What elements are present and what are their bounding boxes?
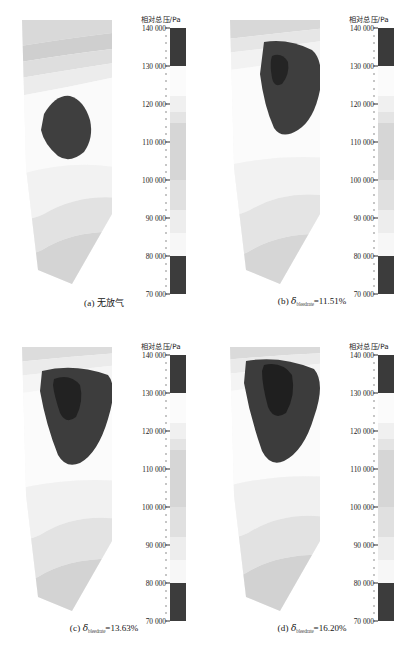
colorbar-tick-label: 100 000 <box>142 503 166 512</box>
colorbar-tick-label: 110 000 <box>350 465 374 474</box>
caption-b: (b) δbleedrate=11.51% <box>208 296 416 306</box>
caption-label-b: (b) <box>278 296 289 306</box>
colorbar-strip-c <box>170 355 186 621</box>
colorbar-minor-tick <box>165 149 167 150</box>
colorbar-minor-tick <box>165 172 167 173</box>
colorbar-tick-mark <box>374 393 378 394</box>
colorbar-minor-tick <box>165 491 167 492</box>
colorbar-band <box>170 450 186 507</box>
colorbar-tick-label: 100 000 <box>350 503 374 512</box>
caption-d: (d) δbleedrate=16.20% <box>208 623 416 633</box>
colorbar-tick-mark <box>166 431 170 432</box>
colorbar-tick-label: 110 000 <box>350 138 374 147</box>
colorbar-minor-tick <box>165 400 167 401</box>
colorbar-tick-label: 140 000 <box>350 24 374 33</box>
colorbar-band <box>378 439 394 450</box>
colorbar-minor-tick <box>373 377 375 378</box>
colorbar-tick-mark <box>374 256 378 257</box>
colorbar-ticks-d: 140 000130 000120 000110 000100 00090 00… <box>326 355 376 621</box>
colorbar-tick-mark <box>166 104 170 105</box>
colorbar-minor-tick <box>165 598 167 599</box>
colorbar-band <box>170 123 186 180</box>
colorbar-minor-tick <box>373 225 375 226</box>
colorbar-tick-mark <box>166 355 170 356</box>
colorbar-minor-tick <box>373 81 375 82</box>
caption-value-c: =13.63% <box>105 623 138 633</box>
colorbar-minor-tick <box>373 286 375 287</box>
colorbar-tick-mark <box>374 469 378 470</box>
colorbar-minor-tick <box>373 400 375 401</box>
colorbar-minor-tick <box>373 461 375 462</box>
contour-plot-b <box>216 18 328 286</box>
colorbar-minor-tick <box>165 164 167 165</box>
colorbar-minor-tick <box>165 50 167 51</box>
colorbar-minor-tick <box>165 195 167 196</box>
colorbar-minor-tick <box>373 195 375 196</box>
colorbar-tick-label: 90 000 <box>354 214 374 223</box>
colorbar-band <box>170 210 186 233</box>
colorbar-tick-label: 100 000 <box>142 176 166 185</box>
colorbar-tick-mark <box>374 621 378 622</box>
colorbar-band <box>170 28 186 66</box>
caption-value-b: =11.51% <box>314 296 347 306</box>
colorbar-minor-tick <box>373 111 375 112</box>
colorbar-tick-label: 140 000 <box>350 351 374 360</box>
colorbar-band <box>170 180 186 210</box>
colorbar-minor-tick <box>373 271 375 272</box>
colorbar-band <box>170 583 186 621</box>
colorbar-strip-a <box>170 28 186 294</box>
colorbar-minor-tick <box>165 233 167 234</box>
colorbar-tick-mark <box>166 294 170 295</box>
colorbar-minor-tick <box>373 362 375 363</box>
colorbar-tick-label: 140 000 <box>142 24 166 33</box>
colorbar-band <box>378 66 394 96</box>
blade-contour-svg-c <box>8 345 120 613</box>
colorbar-minor-tick <box>373 134 375 135</box>
colorbar-minor-tick <box>373 476 375 477</box>
colorbar-minor-tick <box>165 202 167 203</box>
colorbar-band <box>378 233 394 256</box>
panel-a: 相对总压/Pa 140 000130 000120 000110 000100 … <box>0 0 208 327</box>
colorbar-minor-tick <box>373 537 375 538</box>
colorbar-d: 相对总压/Pa 140 000130 000120 000110 000100 … <box>326 341 414 633</box>
colorbar-band <box>170 66 186 96</box>
colorbar-tick-label: 90 000 <box>146 214 166 223</box>
colorbar-band <box>378 28 394 66</box>
colorbar-minor-tick <box>373 514 375 515</box>
colorbar-minor-tick <box>165 88 167 89</box>
caption-subscript-d: bleedrate <box>296 628 313 634</box>
colorbar-minor-tick <box>373 88 375 89</box>
colorbar-minor-tick <box>373 210 375 211</box>
colorbar-tick-mark <box>166 393 170 394</box>
caption-symbol-b: δ <box>291 296 296 306</box>
colorbar-minor-tick <box>373 567 375 568</box>
colorbar-strip-d <box>378 355 394 621</box>
colorbar-minor-tick <box>165 286 167 287</box>
colorbar-minor-tick <box>373 408 375 409</box>
colorbar-minor-tick <box>165 43 167 44</box>
colorbar-tick-mark <box>374 28 378 29</box>
colorbar-tick-label: 100 000 <box>350 176 374 185</box>
colorbar-minor-tick <box>165 575 167 576</box>
colorbar-minor-tick <box>373 438 375 439</box>
colorbar-minor-tick <box>165 370 167 371</box>
colorbar-minor-tick <box>373 126 375 127</box>
colorbar-tick-label: 130 000 <box>142 389 166 398</box>
colorbar-band <box>378 450 394 507</box>
panel-d: 相对总压/Pa 140 000130 000120 000110 000100 … <box>208 327 416 654</box>
colorbar-tick-mark <box>166 28 170 29</box>
colorbar-minor-tick <box>165 385 167 386</box>
colorbar-tick-label: 120 000 <box>142 427 166 436</box>
colorbar-band <box>378 180 394 210</box>
colorbar-tick-label: 130 000 <box>350 389 374 398</box>
colorbar-minor-tick <box>373 499 375 500</box>
colorbar-minor-tick <box>165 210 167 211</box>
colorbar-tick-label: 120 000 <box>350 100 374 109</box>
colorbar-minor-tick <box>165 567 167 568</box>
colorbar-minor-tick <box>165 73 167 74</box>
colorbar-minor-tick <box>165 499 167 500</box>
colorbar-minor-tick <box>373 119 375 120</box>
caption-label-d: (d) <box>278 623 289 633</box>
colorbar-minor-tick <box>165 377 167 378</box>
colorbar-minor-tick <box>373 240 375 241</box>
